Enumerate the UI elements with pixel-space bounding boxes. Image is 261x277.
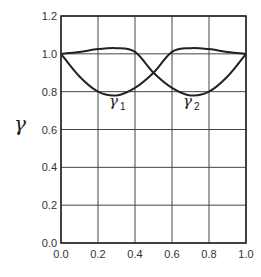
y-axis-label: γ — [14, 112, 26, 136]
x-tick-label: 1.0 — [238, 248, 253, 260]
x-tick-label: 0.0 — [53, 248, 68, 260]
curves — [61, 48, 246, 96]
y-tick-label: 0.6 — [42, 124, 57, 136]
svg-text:1: 1 — [120, 101, 126, 112]
x-tick-labels: 0.00.20.40.60.81.0 — [53, 248, 253, 260]
x-tick-label: 0.8 — [201, 248, 216, 260]
svg-text:γ: γ — [183, 92, 192, 110]
y-tick-label: 0.8 — [42, 86, 57, 98]
x-tick-label: 0.6 — [164, 248, 179, 260]
y-tick-label: 0.4 — [42, 161, 57, 173]
chart: 0.00.20.40.60.81.01.2 0.00.20.40.60.81.0… — [0, 0, 261, 277]
svg-text:2: 2 — [194, 101, 200, 112]
y-tick-label: 1.2 — [42, 10, 57, 22]
curve-label-gamma1: γ 1 — [109, 92, 126, 112]
y-tick-label: 1.0 — [42, 48, 57, 60]
x-tick-label: 0.2 — [90, 248, 105, 260]
y-tick-label: 0.2 — [42, 199, 57, 211]
curve-gamma2 — [61, 48, 246, 96]
x-tick-label: 0.4 — [127, 248, 142, 260]
y-tick-labels: 0.00.20.40.60.81.01.2 — [42, 10, 57, 249]
svg-text:γ: γ — [109, 92, 118, 110]
